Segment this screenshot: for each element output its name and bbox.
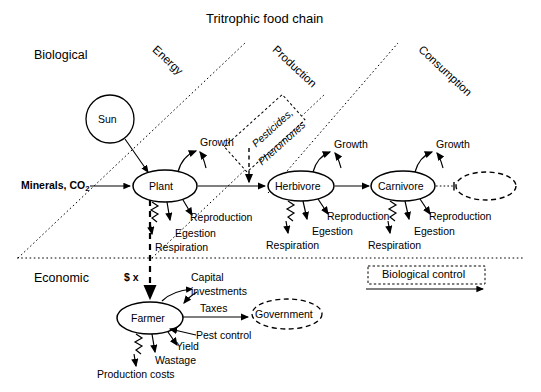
node-label-farmer: Farmer: [131, 313, 165, 324]
node-label-sun: Sun: [98, 114, 117, 125]
domain-label-biological: Biological: [34, 49, 88, 62]
page-title: Tritrophic food chain: [206, 12, 323, 25]
node-label-herbivore: Herbivore: [275, 181, 321, 192]
plant-egestion-label: Egestion: [175, 228, 216, 239]
carnivore-respiration-label: Respiration: [368, 240, 421, 251]
plant-egestion-arrow: [167, 202, 170, 220]
plant-respiration-squiggle: [151, 202, 158, 222]
herbivore-respiration-squiggle: [287, 201, 294, 221]
capital-investments-label-line2: investments: [191, 286, 247, 297]
herbivore-respiration-label: Respiration: [266, 240, 319, 251]
carnivore-egestion-label: Egestion: [414, 226, 455, 237]
carnivore-respiration-squiggle: [389, 201, 396, 221]
minerals-subscript: 2: [85, 184, 89, 193]
production-costs-label: Production costs: [97, 369, 175, 380]
carnivore-growth-return: [437, 153, 443, 168]
biological-control-label: Biological control: [382, 269, 465, 280]
herbivore-egestion-arrow: [303, 201, 307, 219]
plant-growth-curve: [178, 151, 196, 172]
node-label-carnivore: Carnivore: [378, 181, 424, 192]
band-separator-1: [18, 43, 245, 258]
herbivore-reproduction-label: Reproduction: [327, 211, 389, 222]
sun-to-plant-arrow: [125, 139, 148, 172]
domain-label-economic: Economic: [34, 272, 89, 285]
diagram-canvas: Tritrophic food chain Biological Economi…: [0, 0, 541, 392]
node-label-plant: Plant: [149, 181, 173, 192]
plant-growth-return: [200, 152, 206, 168]
farmer-production-costs-arrow: [134, 354, 136, 366]
money-flow-label: $ x: [124, 272, 139, 283]
herbivore-growth-return: [335, 153, 341, 168]
plant-respiration-label: Respiration: [155, 242, 208, 253]
carnivore-egestion-arrow: [405, 201, 409, 219]
wastage-label: Wastage: [155, 355, 196, 366]
farmer-production-costs-squiggle: [135, 334, 142, 354]
node-label-government: Government: [255, 309, 313, 320]
pest-control-label: Pest control: [196, 330, 251, 341]
herbivore-respiration-arrow: [286, 221, 288, 233]
carnivore-reproduction-label: Reproduction: [429, 211, 491, 222]
carnivore-respiration-arrow: [388, 221, 390, 233]
top-predator-node[interactable]: [456, 172, 516, 200]
carnivore-growth-curve: [415, 152, 432, 172]
plant-growth-label: Growth: [200, 137, 234, 148]
capital-investments-label-line1: Capital: [191, 272, 224, 283]
pest-control-arrow: [170, 329, 196, 335]
herbivore-growth-label: Growth: [334, 139, 368, 150]
taxes-label: Taxes: [200, 303, 227, 314]
plant-reproduction-label: Reproduction: [190, 212, 252, 223]
farmer-wastage-arrow: [152, 334, 155, 352]
minerals-text: Minerals, CO: [21, 179, 85, 191]
carnivore-growth-label: Growth: [436, 139, 470, 150]
herbivore-growth-curve: [313, 152, 330, 172]
minerals-input-label: Minerals, CO2: [21, 180, 89, 192]
herbivore-egestion-label: Egestion: [312, 226, 353, 237]
yield-label: Yield: [176, 341, 199, 352]
